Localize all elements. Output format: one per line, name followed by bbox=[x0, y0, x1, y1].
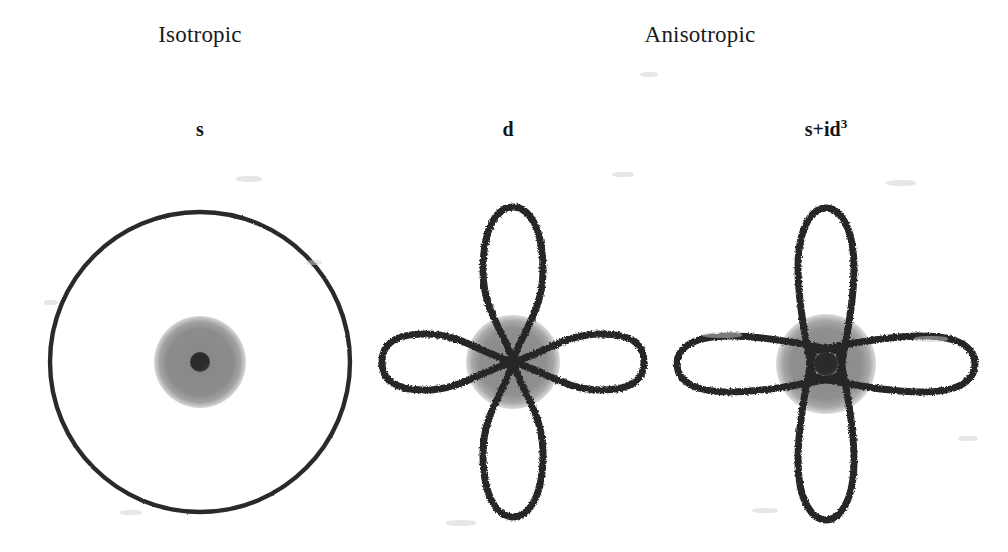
scan-speck bbox=[640, 72, 658, 77]
panel-label-s-wave-main: s bbox=[196, 118, 204, 140]
diagram-d-wave bbox=[333, 182, 693, 542]
diagram-s-plus-id3-wave bbox=[646, 184, 1006, 544]
s-wave-core-dot bbox=[190, 352, 210, 372]
scan-speck bbox=[612, 172, 634, 177]
group-label-anisotropic: Anisotropic bbox=[645, 22, 756, 48]
d-wave-gap-contour bbox=[382, 207, 644, 517]
diagram-s-wave bbox=[20, 182, 380, 542]
group-label-isotropic: Isotropic bbox=[158, 22, 242, 48]
panel-label-s-plus-id3-exponent: 3 bbox=[841, 116, 848, 131]
s-plus-id3-core-dot bbox=[814, 352, 838, 376]
panel-label-s-wave: s bbox=[196, 118, 204, 141]
panel-label-d-wave-main: d bbox=[502, 118, 513, 140]
figure-canvas: Isotropic Anisotropic s d s+id3 bbox=[0, 0, 1008, 552]
panel-label-s-plus-id3-main: s+id bbox=[805, 118, 841, 140]
panel-label-s-plus-id3-wave: s+id3 bbox=[805, 118, 847, 141]
panel-label-d-wave: d bbox=[502, 118, 513, 141]
